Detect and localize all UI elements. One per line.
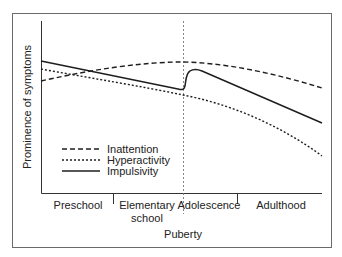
series-impulsivity-line [41,61,322,123]
x-category-elementary-line2: school [131,212,163,224]
series-hyperactivity-line [41,69,322,156]
figure-frame [13,14,332,248]
chart-canvas [0,0,342,257]
x-category-elementary-line1: Elementary [119,199,175,211]
x-category-preschool: Preschool [54,199,103,211]
x-axis-label-puberty: Puberty [164,228,202,240]
legend-label-impulsivity: Impulsivity [107,165,158,177]
x-category-adulthood: Adulthood [256,199,306,211]
series-inattention-line [41,62,322,88]
x-category-adolescence: Adolescence [178,199,241,211]
y-axis-label: Prominence of symptoms [21,45,33,169]
